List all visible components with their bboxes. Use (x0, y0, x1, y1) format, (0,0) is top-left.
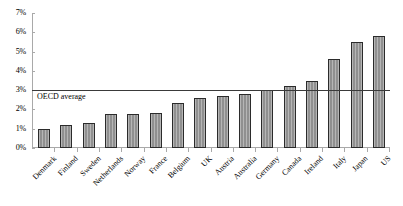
bar-slot (368, 13, 390, 148)
bar-denmark[interactable] (38, 129, 50, 148)
x-label-slot: Italy (323, 152, 345, 206)
x-axis-label-ireland: Ireland (303, 154, 325, 176)
x-label-slot: Japan (345, 152, 367, 206)
x-axis-label-finland: Finland (56, 154, 80, 178)
bar-australia[interactable] (239, 94, 251, 148)
bar-austria[interactable] (217, 96, 229, 148)
x-axis-label-canada: Canada (280, 154, 303, 177)
y-tick-label: 4% (16, 67, 26, 75)
bar-chart: 0%1%2%3%4%5%6%7% DenmarkFinlandSwedenNet… (0, 0, 403, 206)
x-label-slot: US (368, 152, 390, 206)
bar-slot (33, 13, 55, 148)
x-label-slot: Norway (122, 152, 144, 206)
y-tick-label: 1% (16, 125, 26, 133)
bar-uk[interactable] (194, 98, 206, 148)
x-label-slot: Austria (212, 152, 234, 206)
x-axis-label-germany: Germany (253, 154, 280, 181)
x-label-slot: Australia (234, 152, 256, 206)
bar-slot (78, 13, 100, 148)
bar-belgium[interactable] (172, 103, 184, 148)
bar-slot (55, 13, 77, 148)
bar-sweden[interactable] (83, 123, 95, 148)
x-label-slot: Ireland (301, 152, 323, 206)
y-axis: 0%1%2%3%4%5%6%7% (0, 0, 32, 163)
bar-finland[interactable] (60, 125, 72, 148)
y-tick-label: 6% (16, 28, 26, 36)
bar-slot (234, 13, 256, 148)
y-tick-label: 7% (16, 9, 26, 17)
x-axis-label-norway: Norway (122, 154, 147, 179)
bars-container (33, 13, 390, 148)
x-label-slot: Belgium (167, 152, 189, 206)
x-axis-label-denmark: Denmark (30, 154, 57, 181)
x-axis-label-australia: Australia (231, 154, 258, 181)
x-label-slot: Canada (278, 152, 300, 206)
bar-germany[interactable] (261, 90, 273, 148)
x-axis-label-belgium: Belgium (166, 154, 192, 180)
x-label-slot: Denmark (33, 152, 55, 206)
bar-netherlands[interactable] (105, 114, 117, 148)
bar-norway[interactable] (127, 114, 139, 148)
bar-slot (323, 13, 345, 148)
bar-japan[interactable] (351, 42, 363, 148)
bar-france[interactable] (150, 113, 162, 148)
x-label-slot: UK (189, 152, 211, 206)
bar-slot (122, 13, 144, 148)
x-axis-labels: DenmarkFinlandSwedenNetherlandsNorwayFra… (33, 152, 390, 206)
x-label-slot: Finland (55, 152, 77, 206)
y-tick-label: 2% (16, 105, 26, 113)
bar-slot (145, 13, 167, 148)
x-label-slot: Germany (256, 152, 278, 206)
bar-slot (167, 13, 189, 148)
bar-slot (100, 13, 122, 148)
bar-slot (345, 13, 367, 148)
bar-slot (256, 13, 278, 148)
x-axis-label-us: US (379, 154, 393, 168)
bar-canada[interactable] (284, 86, 296, 148)
bar-slot (212, 13, 234, 148)
y-tick-label: 3% (16, 86, 26, 94)
x-label-slot: Netherlands (100, 152, 122, 206)
oecd-average-line (32, 90, 390, 91)
oecd-average-label: OECD average (37, 92, 86, 101)
bar-italy[interactable] (328, 59, 340, 148)
bar-slot (278, 13, 300, 148)
x-label-slot: France (145, 152, 167, 206)
bar-slot (301, 13, 323, 148)
y-tick-label: 0% (16, 144, 26, 152)
y-tick-label: 5% (16, 48, 26, 56)
bar-slot (189, 13, 211, 148)
bar-us[interactable] (373, 36, 385, 148)
